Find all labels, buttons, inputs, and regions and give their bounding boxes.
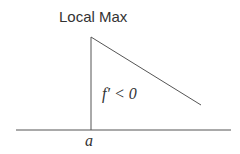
derivative-label: f′ < 0	[102, 85, 137, 103]
local-max-diagram: f′ < 0 a	[0, 0, 240, 154]
point-a-label: a	[85, 132, 93, 149]
